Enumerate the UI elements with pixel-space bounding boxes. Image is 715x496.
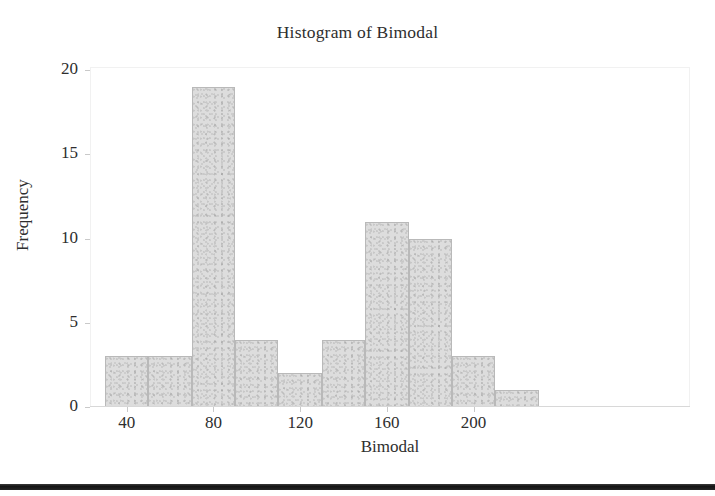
x-tick-label: 200 bbox=[444, 413, 504, 433]
x-tick-mark bbox=[127, 407, 128, 412]
y-tick-mark bbox=[85, 70, 90, 71]
plot-area bbox=[90, 67, 690, 407]
x-tick-label: 80 bbox=[183, 413, 243, 433]
y-tick-label: 5 bbox=[22, 312, 78, 332]
histogram-bar bbox=[365, 222, 408, 407]
histogram-bar bbox=[278, 373, 321, 407]
x-tick-mark bbox=[300, 407, 301, 412]
chart-title: Histogram of Bimodal bbox=[0, 22, 715, 43]
y-tick-label: 20 bbox=[22, 59, 78, 79]
y-axis-title: Frequency bbox=[13, 125, 33, 305]
histogram-bar bbox=[192, 87, 235, 407]
histogram-bar bbox=[105, 356, 148, 407]
histogram-bar bbox=[452, 356, 495, 407]
histogram-bar bbox=[322, 340, 365, 407]
x-tick-label: 160 bbox=[357, 413, 417, 433]
y-tick-label: 0 bbox=[22, 396, 78, 416]
x-axis-title: Bimodal bbox=[90, 437, 690, 457]
x-tick-mark bbox=[387, 407, 388, 412]
x-tick-label: 120 bbox=[270, 413, 330, 433]
x-tick-mark bbox=[213, 407, 214, 412]
histogram-bar bbox=[409, 239, 452, 408]
histogram-figure: Histogram of Bimodal 4080120160200 05101… bbox=[0, 0, 715, 496]
y-tick-mark bbox=[85, 239, 90, 240]
x-tick-label: 40 bbox=[97, 413, 157, 433]
histogram-bar bbox=[148, 356, 191, 407]
x-axis-line bbox=[90, 406, 690, 407]
y-tick-mark bbox=[85, 323, 90, 324]
x-tick-mark bbox=[474, 407, 475, 412]
y-tick-mark bbox=[85, 154, 90, 155]
page-bottom-rule bbox=[0, 484, 715, 490]
histogram-bar bbox=[235, 340, 278, 407]
y-tick-mark bbox=[85, 407, 90, 408]
histogram-bar bbox=[495, 390, 538, 407]
